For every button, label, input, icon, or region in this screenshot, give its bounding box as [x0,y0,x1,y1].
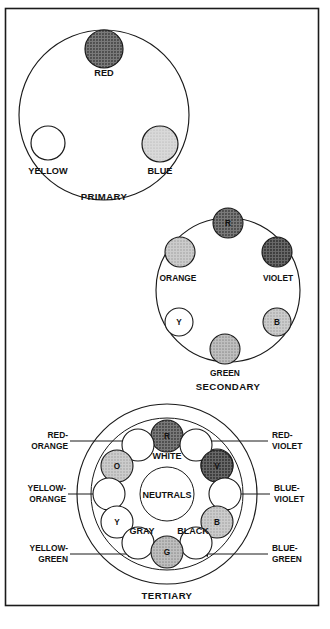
callout-yellow-orange-line1: YELLOW- [28,483,67,493]
primary-caption: PRIMARY [81,191,128,202]
callout-red-violet: RED- VIOLET [272,430,303,451]
callout-red-violet-line1: RED- [272,430,293,440]
primary-swatch-blue[interactable]: BLUE [142,126,178,176]
tertiary-ring-o[interactable]: O [101,450,133,482]
secondary-swatch-violet[interactable]: VIOLET [262,237,294,283]
callout-red-violet-line2: VIOLET [272,441,303,451]
callout-yellow-orange: YELLOW- ORANGE [28,483,67,504]
center-label-neutrals: NEUTRALS [143,490,192,500]
center-label-black: BLACK [177,526,209,536]
tertiary-caption: TERTIARY [142,590,193,601]
swatch-label-b-tertiary: B [214,518,220,527]
swatch-label-r: R [225,219,231,228]
swatch-label-red: RED [94,68,114,78]
swatch-label-o: O [114,462,121,471]
swatch-label-violet: VIOLET [263,273,294,283]
swatch-circle-blue[interactable] [142,126,178,162]
swatch-label-v: V [214,462,220,471]
callout-yellow-green-line2: GREEN [38,554,68,564]
secondary-swatch-b[interactable]: B [263,308,291,336]
swatch-circle-violet[interactable] [262,237,292,267]
callout-yellow-green: YELLOW- GREEN [30,543,69,564]
center-label-gray: GRAY [129,526,154,536]
swatch-circle-yellow[interactable] [31,126,65,160]
swatch-circle-green[interactable] [210,334,240,364]
diagram-canvas: RED YELLOW BLUE PRIMARY R [0,0,330,629]
diagram-frame [6,9,319,606]
callout-blue-violet-line2: VIOLET [274,494,305,504]
swatch-label-green: GREEN [210,368,240,378]
primary-swatch-yellow[interactable]: YELLOW [28,126,68,176]
primary-swatch-red[interactable]: RED [85,30,123,78]
swatch-circle-blueviolet[interactable] [209,478,241,510]
tertiary-ring-g[interactable]: G [151,536,183,568]
callout-blue-violet-line1: BLUE- [274,483,300,493]
swatch-label-b: B [274,318,280,327]
secondary-swatch-r[interactable]: R [213,208,243,238]
secondary-swatch-green[interactable]: GREEN [210,334,240,378]
tertiary-ring-yelloworange[interactable] [93,478,125,510]
secondary-swatch-y[interactable]: Y [165,308,193,336]
swatch-label-tertiary-r: R [164,432,170,441]
callout-blue-green: BLUE- GREEN [272,543,302,564]
callout-yellow-orange-line2: ORANGE [29,494,66,504]
callout-blue-green-line2: GREEN [272,554,302,564]
secondary-swatch-orange[interactable]: ORANGE [160,237,197,283]
swatch-circle-yelloworange[interactable] [93,478,125,510]
swatch-label-g: G [164,548,170,557]
primary-wheel-group: RED YELLOW BLUE PRIMARY [19,30,189,202]
swatch-label-blue: BLUE [147,166,172,176]
tertiary-swatch-r[interactable]: R [151,420,183,452]
callout-yellow-green-line1: YELLOW- [30,543,69,553]
swatch-label-orange: ORANGE [160,273,197,283]
callout-red-orange: RED- ORANGE [31,430,68,451]
callout-red-orange-line2: ORANGE [31,441,68,451]
color-wheel-diagram: RED YELLOW BLUE PRIMARY R [0,0,330,629]
swatch-circle-red[interactable] [85,30,123,68]
tertiary-ring-v[interactable]: V [201,450,233,482]
secondary-caption: SECONDARY [196,381,261,392]
swatch-label-yellow: YELLOW [28,166,68,176]
tertiary-ring-blueviolet[interactable] [209,478,241,510]
swatch-circle-orange[interactable] [165,237,195,267]
center-label-white: WHITE [153,451,182,461]
secondary-wheel-group: R ORANGE VIOLET Y B [156,208,300,392]
swatch-label-y: Y [176,318,182,327]
tertiary-wheel-group: R [28,404,306,601]
callout-blue-violet: BLUE- VIOLET [274,483,305,504]
callout-red-orange-line1: RED- [48,430,69,440]
swatch-label-y-tertiary: Y [114,518,120,527]
callout-blue-green-line1: BLUE- [272,543,298,553]
